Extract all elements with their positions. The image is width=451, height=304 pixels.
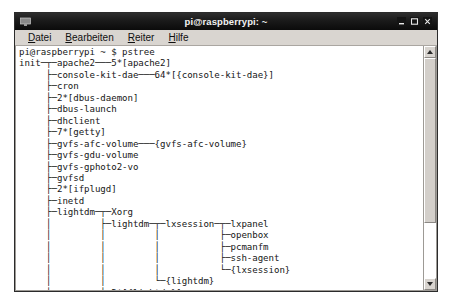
menu-item-reiter[interactable]: Reiter	[121, 30, 162, 45]
menu-item-bearbeiten[interactable]: Bearbeiten	[58, 30, 120, 45]
terminal-output-area[interactable]: pi@raspberrypi ~ $ pstree init─┬─apache2…	[16, 46, 423, 290]
scrollbar-thumb[interactable]	[424, 58, 436, 223]
vertical-scrollbar[interactable]	[423, 46, 436, 290]
scroll-up-button[interactable]	[424, 46, 436, 58]
menu-item-reiter-label: eiter	[135, 32, 154, 43]
scroll-down-icon	[427, 282, 433, 286]
screen: pi@raspberrypi: ~ Datei Bearbeiten	[0, 0, 451, 304]
terminal-body: pi@raspberrypi ~ $ pstree init─┬─apache2…	[15, 46, 437, 291]
scrollbar-track[interactable]	[424, 58, 436, 278]
scroll-down-button[interactable]	[424, 278, 436, 290]
menubar: Datei Bearbeiten Reiter Hilfe	[15, 30, 437, 46]
menu-item-hilfe-label: ilfe	[176, 32, 189, 43]
close-icon[interactable]	[423, 17, 432, 26]
scroll-up-icon	[427, 50, 433, 54]
menu-item-hilfe[interactable]: Hilfe	[161, 30, 195, 45]
terminal-icon	[20, 16, 31, 27]
menu-item-datei[interactable]: Datei	[21, 30, 58, 45]
window-controls	[397, 17, 434, 26]
window-titlebar[interactable]: pi@raspberrypi: ~	[15, 13, 437, 30]
menu-item-datei-label: atei	[35, 32, 51, 43]
window-title: pi@raspberrypi: ~	[15, 13, 437, 30]
terminal-window: pi@raspberrypi: ~ Datei Bearbeiten	[14, 12, 438, 292]
maximize-icon[interactable]	[410, 17, 419, 26]
menu-item-bearbeiten-label: earbeiten	[72, 32, 114, 43]
terminal-text: pi@raspberrypi ~ $ pstree init─┬─apache2…	[19, 47, 423, 290]
minimize-icon[interactable]	[397, 17, 406, 26]
